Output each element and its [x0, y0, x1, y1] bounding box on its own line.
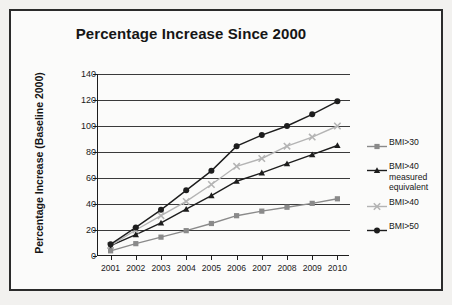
y-tick-label: 0	[56, 251, 96, 261]
legend-label: BMI>30	[389, 137, 419, 148]
data-point-marker	[133, 241, 138, 246]
series-layer	[98, 74, 350, 256]
series-1	[108, 196, 340, 253]
series-line	[111, 101, 338, 244]
data-point-marker	[209, 221, 214, 226]
data-point-marker	[158, 213, 164, 219]
x-tick-mark	[211, 256, 212, 260]
data-point-marker	[108, 248, 113, 253]
data-point-marker	[374, 144, 379, 149]
data-point-marker	[374, 227, 380, 233]
data-point-marker	[284, 205, 289, 210]
data-point-marker	[108, 241, 114, 247]
y-tick-label: 120	[56, 95, 96, 105]
plot-wrapper: 020406080100120140 200120022003200420052…	[97, 74, 349, 256]
series-line	[111, 126, 338, 246]
legend-label: BMI>40 measured equivalent	[389, 161, 428, 193]
data-point-marker	[183, 206, 189, 212]
legend-entry-bmi-50[interactable]: BMI>50	[367, 221, 452, 233]
data-point-marker	[334, 123, 340, 129]
chart-frame: Percentage Increase Since 2000 Percentag…	[9, 9, 443, 291]
data-point-marker	[259, 132, 265, 138]
legend-entry-bmi-40[interactable]: BMI>40	[367, 197, 452, 209]
x-tick-mark	[136, 256, 137, 260]
data-point-marker	[234, 143, 240, 149]
data-point-marker	[234, 213, 239, 218]
data-point-marker	[309, 134, 315, 140]
x-tick-mark	[337, 256, 338, 260]
data-point-marker	[284, 143, 290, 149]
data-point-marker	[184, 228, 189, 233]
legend-entry-bmi-40-measured-equivalent[interactable]: BMI>40 measured equivalent	[367, 161, 452, 193]
x-tick-mark	[312, 256, 313, 260]
data-point-marker	[334, 142, 340, 148]
legend-marker-circle-icon	[367, 222, 387, 233]
y-tick-label: 40	[56, 199, 96, 209]
data-point-marker	[259, 209, 264, 214]
legend-marker-triangle-icon	[367, 162, 387, 173]
data-point-marker	[158, 235, 163, 240]
chart-legend: BMI>30BMI>40 measured equivalentBMI>40BM…	[367, 137, 452, 245]
data-point-marker	[133, 224, 139, 230]
data-point-marker	[183, 198, 189, 204]
chart-figure: Percentage Increase Since 2000 Percentag…	[0, 0, 452, 305]
data-point-marker	[208, 192, 214, 198]
x-tick-mark	[111, 256, 112, 260]
series-4	[108, 98, 341, 247]
data-point-marker	[158, 220, 164, 226]
data-point-marker	[334, 98, 340, 104]
y-tick-label: 60	[56, 173, 96, 183]
data-point-marker	[309, 111, 315, 117]
legend-label: BMI>50	[389, 221, 419, 232]
data-point-marker	[284, 123, 290, 129]
legend-marker-square-icon	[367, 138, 387, 149]
y-tick-label: 80	[56, 147, 96, 157]
x-tick-mark	[161, 256, 162, 260]
data-point-marker	[208, 181, 214, 187]
x-tick-mark	[237, 256, 238, 260]
data-point-marker	[158, 207, 164, 213]
legend-entry-bmi-30[interactable]: BMI>30	[367, 137, 452, 149]
y-tick-label: 100	[56, 121, 96, 131]
chart-title: Percentage Increase Since 2000	[11, 25, 371, 42]
y-axis-label: Percentage Increase (Baseline 2000)	[33, 63, 45, 263]
data-point-marker	[310, 201, 315, 206]
plot-area: 020406080100120140 200120022003200420052…	[97, 74, 349, 256]
series-line	[111, 146, 338, 246]
data-point-marker	[183, 187, 189, 193]
series-3	[107, 123, 340, 249]
legend-marker-x-icon	[367, 198, 387, 209]
data-point-marker	[208, 168, 214, 174]
y-tick-label: 140	[56, 69, 96, 79]
x-tick-mark	[262, 256, 263, 260]
x-tick-label: 2010	[320, 263, 354, 273]
legend-label: BMI>40	[389, 197, 419, 208]
x-tick-mark	[186, 256, 187, 260]
data-point-marker	[335, 196, 340, 201]
y-tick-label: 20	[56, 225, 96, 235]
x-tick-mark	[287, 256, 288, 260]
